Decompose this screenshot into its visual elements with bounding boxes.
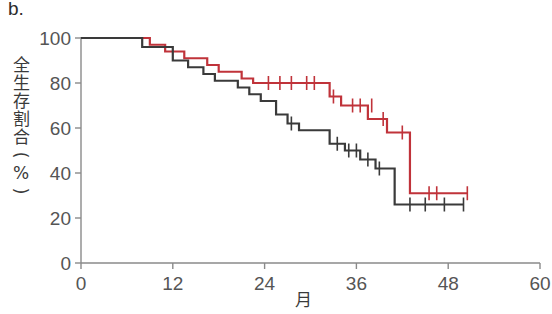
y-axis-label-char: ) [12,176,30,206]
x-axis-tick-label: 12 [162,273,183,294]
x-axis-tick-label: 36 [346,273,367,294]
survival-chart-figure: b. 全 生 存 割 合 ( % ) 月 0204060801000122436… [0,0,552,314]
panel-label: b. [8,0,24,20]
y-axis-label-char: 割 [6,110,36,128]
y-axis-label-char: 存 [6,92,36,110]
y-axis-label-char: 全 [6,56,36,74]
y-axis-tick-label: 20 [50,208,71,229]
y-axis-tick-label: 0 [60,253,71,274]
axis-group [75,37,540,269]
y-axis-tick-label: 80 [50,73,71,94]
y-axis-tick-label: 100 [39,28,71,49]
plot-area: 02040608010001224364860 [0,0,552,314]
x-axis-tick-label: 0 [76,273,87,294]
x-axis-tick-label: 60 [529,273,550,294]
y-axis-tick-label: 40 [50,163,71,184]
survival-curve-black-curve [81,38,464,205]
y-axis-label-char: 生 [6,74,36,92]
x-axis-tick-label: 24 [254,273,276,294]
x-axis-tick-label: 48 [438,273,459,294]
x-axis-label: 月 [295,286,312,311]
survival-curve-red-curve [81,38,467,193]
y-axis-label-char: ( [12,140,30,170]
y-axis-label: 全 生 存 割 合 ( % ) [6,56,36,200]
series-group [81,38,467,212]
tick-label-group: 02040608010001224364860 [39,28,550,294]
y-axis-tick-label: 60 [50,118,71,139]
